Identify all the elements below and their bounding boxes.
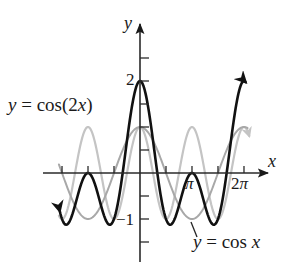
axes-layer: [43, 24, 268, 262]
x-tick-label-2pi: 2π: [231, 175, 248, 192]
cos2x-label-close: ): [86, 94, 92, 115]
x-axis-label: x: [268, 152, 276, 170]
x-tick-label-pi: π: [185, 175, 194, 192]
x-tick-label-2pi-pi: π: [240, 174, 249, 193]
cos2x-label-eq: = cos(2: [16, 94, 77, 115]
cos2x-label-x: x: [78, 94, 86, 115]
y-tick-label-2: 2: [126, 71, 135, 88]
cos2x-label: y = cos(2x): [8, 95, 93, 114]
cosx-label: y = cos x: [193, 232, 260, 251]
y-tick-label-neg1: −1: [116, 211, 134, 228]
cosx-label-x: x: [252, 231, 260, 252]
y-axis-label: y: [124, 14, 132, 32]
cosx-label-eq: = cos: [201, 231, 251, 252]
x-tick-label-2pi-coef: 2: [231, 174, 240, 193]
